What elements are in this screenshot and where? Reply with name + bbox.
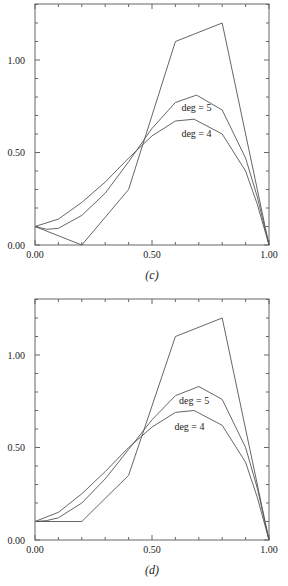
plot-frame [35,4,269,245]
x-tick-label: 0.00 [26,544,44,555]
curve-annotation: deg = 5 [181,102,211,113]
figure: 0.000.501.000.000.501.00deg = 5deg = 4(c… [0,0,288,586]
x-tick-label: 0.50 [143,249,161,260]
y-tick-label: 0.50 [8,442,26,453]
curve-annotation: deg = 4 [174,421,204,432]
deg-5-curve [35,387,269,541]
chart-panel-d: 0.000.501.000.000.501.00deg = 5deg = 4(d… [8,299,278,577]
x-tick-label: 1.00 [260,544,278,555]
y-tick-label: 0.50 [8,147,26,158]
y-tick-label: 0.00 [8,240,26,251]
curve-annotation: deg = 5 [179,395,209,406]
x-tick-label: 0.00 [26,249,44,260]
deg-5-curve [35,95,269,245]
deg-4-curve [35,119,269,245]
panel-caption: (c) [145,268,158,282]
y-tick-label: 1.00 [8,55,26,66]
deg-4-curve [35,411,269,541]
y-tick-label: 0.00 [8,535,26,546]
chart-panel-c: 0.000.501.000.000.501.00deg = 5deg = 4(c… [8,4,278,282]
x-tick-label: 1.00 [260,249,278,260]
control-polygon-line [35,318,269,540]
x-tick-label: 0.50 [143,544,161,555]
y-tick-label: 1.00 [8,350,26,361]
curve-annotation: deg = 4 [181,128,211,139]
panel-caption: (d) [145,563,159,577]
